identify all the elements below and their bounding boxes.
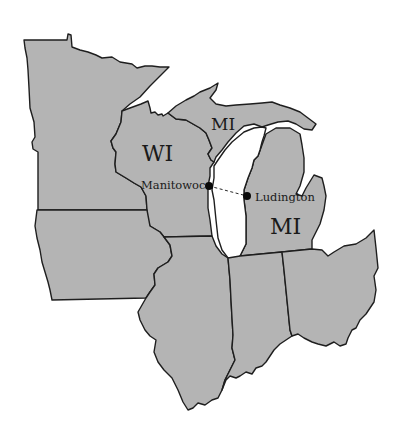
midwest-map: WI MI MI Manitowoc Ludington: [0, 0, 402, 436]
city-dot-ludington: [243, 192, 251, 200]
city-label-manitowoc: Manitowoc: [141, 178, 205, 192]
state-label-wi: WI: [142, 141, 173, 166]
city-label-ludington: Ludington: [255, 190, 315, 204]
city-dot-manitowoc: [205, 182, 213, 190]
state-label-mi-upper: MI: [211, 114, 235, 134]
state-indiana: [222, 252, 292, 390]
state-label-mi-lower: MI: [270, 214, 301, 239]
